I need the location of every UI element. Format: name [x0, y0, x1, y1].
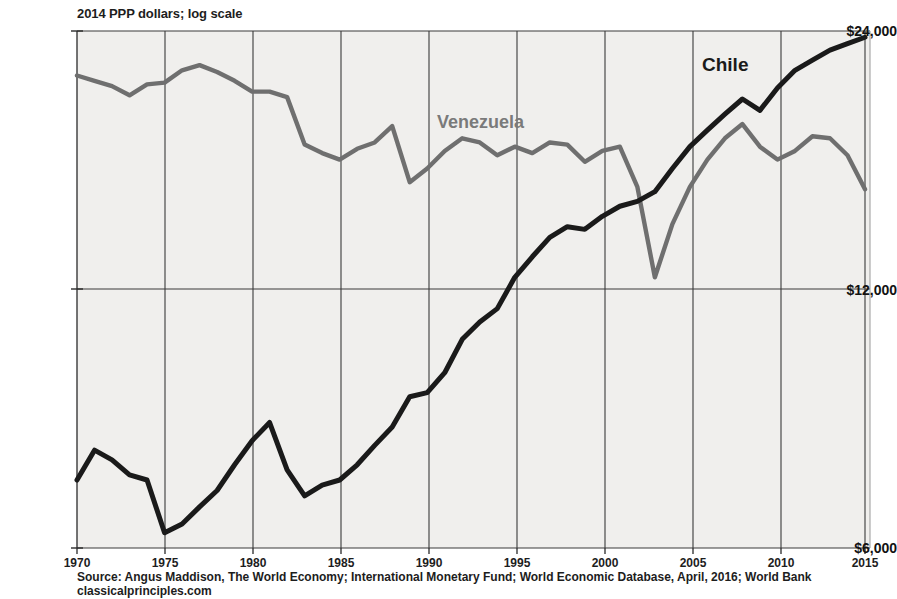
x-axis-label-1990: 1990: [416, 556, 443, 570]
series-annotation-chile: Chile: [702, 54, 748, 76]
y-axis-label-24000: $24,000: [825, 23, 897, 39]
x-axis-label-2010: 2010: [768, 556, 795, 570]
x-axis-ticks: [77, 548, 865, 554]
x-axis-label-1995: 1995: [504, 556, 531, 570]
x-axis-label-1980: 1980: [240, 556, 267, 570]
x-axis-label-1970: 1970: [64, 556, 91, 570]
source-note: Source: Angus Maddison, The World Econom…: [77, 570, 889, 598]
chart-container: 2014 PPP dollars; log scale: [0, 0, 897, 599]
chart-plot-area: [0, 0, 897, 599]
series-annotation-venezuela: Venezuela: [437, 112, 524, 133]
x-axis-label-2000: 2000: [592, 556, 619, 570]
x-axis-label-1975: 1975: [152, 556, 179, 570]
y-axis-label-6000: $6,000: [825, 540, 897, 556]
x-axis-label-2005: 2005: [680, 556, 707, 570]
x-axis-label-1985: 1985: [328, 556, 355, 570]
y-axis-label-12000: $12,000: [825, 282, 897, 298]
x-axis-label-2015: 2015: [852, 556, 879, 570]
